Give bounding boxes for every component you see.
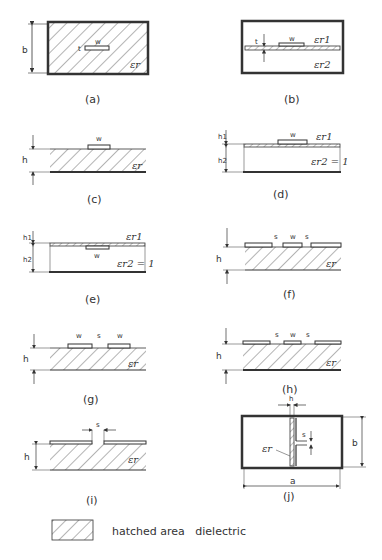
- panel-h-conductor-backed-cpw: h s w s εr (h): [216, 328, 341, 396]
- label-h2: h2: [23, 256, 32, 264]
- label-er: εr: [128, 358, 139, 369]
- label-h: h: [289, 395, 293, 403]
- label-s: s: [97, 332, 101, 340]
- label-er2: εr2: [314, 59, 331, 70]
- panel-e-inverted-microstrip: h1 h2 w εr1 εr2 = 1 (e): [23, 231, 155, 306]
- caption-e: (e): [85, 293, 100, 306]
- caption-a: (a): [85, 93, 100, 106]
- legend: hatched area dielectric: [52, 520, 246, 540]
- caption-g: (g): [83, 393, 99, 406]
- caption-b: (b): [284, 93, 300, 106]
- label-h1: h1: [23, 234, 32, 242]
- label-h: h: [22, 155, 28, 165]
- caption-d: (d): [273, 188, 289, 201]
- panel-b-suspended-stripline: w t εr1 εr2 (b): [242, 21, 343, 106]
- label-w: w: [290, 233, 296, 241]
- label-w: w: [289, 35, 295, 43]
- label-s2: s: [305, 233, 309, 241]
- panel-d-suspended-microstrip: h1 h2 w εr1 εr2 = 1 (d): [218, 130, 349, 201]
- label-b: b: [22, 45, 28, 55]
- label-er2: εr2 = 1: [117, 258, 155, 269]
- label-er: εr: [132, 160, 143, 171]
- transmission-line-diagram: b w t εr (a) w t εr1 εr2 (b) h w εr (c): [0, 0, 382, 560]
- label-b: b: [352, 438, 358, 448]
- label-s2: s: [306, 331, 310, 339]
- label-h: h: [216, 351, 222, 361]
- label-w: w: [290, 331, 296, 339]
- label-w2: w: [117, 332, 123, 340]
- label-er: εr: [128, 454, 139, 465]
- label-w: w: [94, 252, 100, 260]
- panel-i-slotline: h s εr (i): [24, 421, 146, 507]
- panel-j-finline: h s b a εr (j): [242, 395, 366, 503]
- caption-c: (c): [87, 193, 102, 206]
- label-er: εr: [262, 443, 273, 454]
- label-h: h: [216, 254, 222, 264]
- label-w: w: [290, 131, 296, 139]
- label-h2: h2: [218, 157, 227, 165]
- label-a: a: [290, 476, 296, 486]
- caption-j: (j): [283, 490, 295, 503]
- panel-a-stripline: b w t εr (a): [22, 22, 148, 106]
- hatch-swatch: [52, 520, 93, 540]
- caption-f: (f): [283, 288, 295, 301]
- label-er: εr: [326, 258, 337, 269]
- legend-text: hatched area dielectric: [112, 525, 246, 538]
- label-t: t: [255, 38, 258, 46]
- label-t: t: [78, 45, 81, 53]
- label-er1: εr1: [126, 231, 143, 242]
- label-w: w: [95, 38, 101, 46]
- label-h: h: [23, 354, 29, 364]
- label-s1: s: [274, 233, 278, 241]
- label-er1: εr1: [316, 131, 333, 142]
- label-w: w: [96, 135, 102, 143]
- label-er: εr: [130, 59, 141, 70]
- label-s: s: [302, 431, 306, 439]
- label-s: s: [96, 421, 100, 429]
- label-h: h: [24, 452, 30, 462]
- label-er1: εr1: [314, 34, 331, 45]
- label-s1: s: [275, 331, 279, 339]
- label-w1: w: [76, 332, 82, 340]
- label-h1: h1: [218, 133, 227, 141]
- label-er: εr: [326, 357, 337, 368]
- panel-f-coplanar-waveguide: h s w s εr (f): [216, 228, 341, 301]
- caption-i: (i): [86, 494, 98, 507]
- label-er2: εr2 = 1: [311, 156, 349, 167]
- panel-c-microstrip: h w εr (c): [22, 135, 146, 206]
- panel-g-coupled-microstrip: h w s w εr (g): [23, 332, 146, 406]
